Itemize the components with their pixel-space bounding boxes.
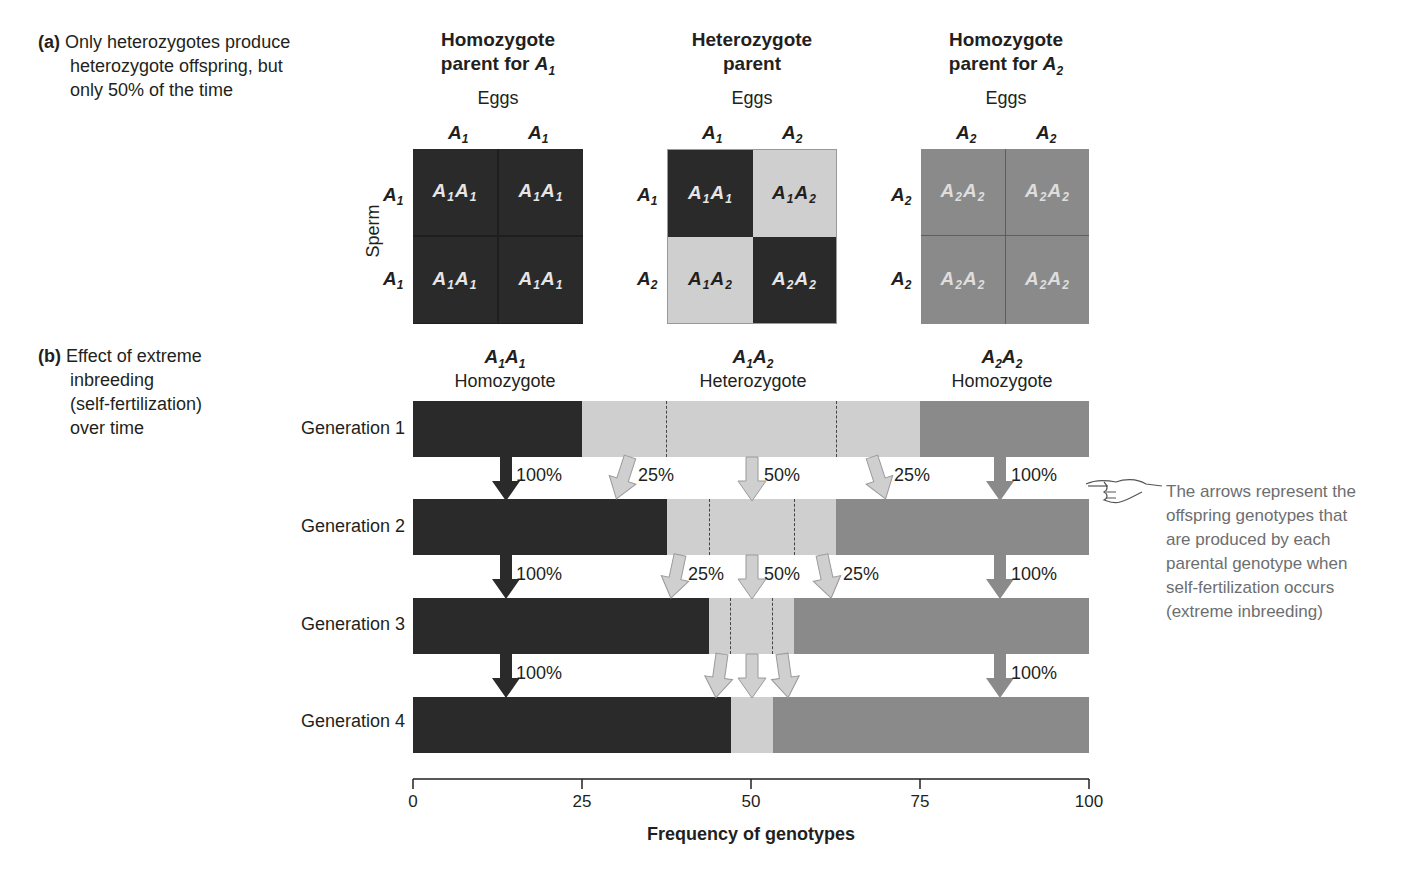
arrow-label: 100%	[516, 465, 562, 486]
arrow-label: 100%	[516, 663, 562, 684]
x-axis-title: Frequency of genotypes	[551, 824, 951, 845]
x-tick-label: 0	[408, 792, 417, 812]
x-tick-label: 100	[1075, 792, 1103, 812]
arrow-label: 100%	[1011, 564, 1057, 585]
arrow-label: 50%	[764, 564, 800, 585]
arrow-down-icon	[738, 654, 766, 698]
arrows-note: The arrows represent the offspring genot…	[1166, 480, 1416, 624]
arrow-down-icon	[702, 652, 736, 699]
arrow-label: 25%	[843, 564, 879, 585]
pointing-hand-icon	[1086, 480, 1162, 503]
arrow-label: 50%	[764, 465, 800, 486]
x-tick-label: 25	[573, 792, 592, 812]
arrow-label: 100%	[1011, 663, 1057, 684]
arrow-down-icon	[986, 654, 1014, 698]
arrow-down-icon	[986, 555, 1014, 599]
arrow-label: 25%	[688, 564, 724, 585]
arrow-down-icon	[859, 453, 899, 503]
arrow-down-icon	[738, 555, 766, 599]
arrow-down-icon	[738, 457, 766, 501]
arrow-label: 100%	[1011, 465, 1057, 486]
x-axis	[413, 779, 1089, 789]
arrow-label: 25%	[894, 465, 930, 486]
arrow-label: 100%	[516, 564, 562, 585]
arrow-down-icon	[808, 552, 845, 601]
arrow-label: 25%	[638, 465, 674, 486]
x-tick-label: 50	[742, 792, 761, 812]
inheritance-arrows	[0, 0, 1427, 878]
x-tick-label: 75	[911, 792, 930, 812]
arrow-down-icon	[986, 457, 1014, 501]
arrow-down-icon	[768, 652, 802, 699]
